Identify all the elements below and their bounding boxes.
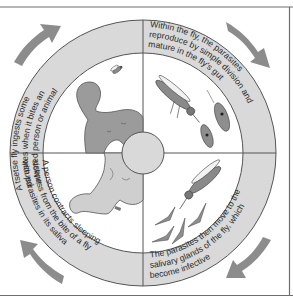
life-cycle-diagram: A tsetse fly ingests some parasites when… — [0, 0, 293, 299]
center-circle — [122, 132, 164, 174]
